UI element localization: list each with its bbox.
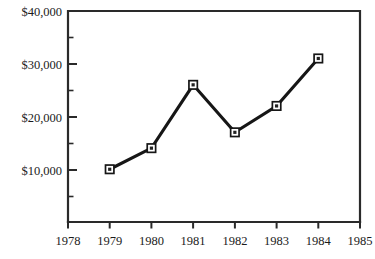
data-point-center (233, 131, 236, 134)
x-tick-label-1984: 1984 (306, 234, 332, 248)
chart-canvas: $40,000 $30,000 $20,000 $10,000 1978 197… (0, 0, 375, 259)
data-point-center (108, 168, 111, 171)
data-point-center (192, 83, 195, 86)
line-chart: $40,000 $30,000 $20,000 $10,000 1978 197… (0, 0, 375, 259)
data-point-center (317, 57, 320, 60)
y-tick-label-20000: $20,000 (21, 111, 62, 125)
data-point-center (150, 147, 153, 150)
x-tick-label-1985: 1985 (348, 234, 373, 248)
x-tick-label-1979: 1979 (97, 234, 122, 248)
x-tick-label-1978: 1978 (56, 234, 81, 248)
y-tick-label-10000: $10,000 (21, 164, 62, 178)
x-tick-label-1980: 1980 (139, 234, 164, 248)
chart-background (0, 0, 375, 259)
x-tick-label-1982: 1982 (222, 234, 247, 248)
y-tick-label-30000: $30,000 (21, 58, 62, 72)
x-tick-label-1983: 1983 (264, 234, 289, 248)
data-point-center (275, 104, 278, 107)
x-tick-label-1981: 1981 (181, 234, 206, 248)
figure-caption (0, 251, 375, 259)
y-tick-label-40000: $40,000 (21, 5, 62, 19)
